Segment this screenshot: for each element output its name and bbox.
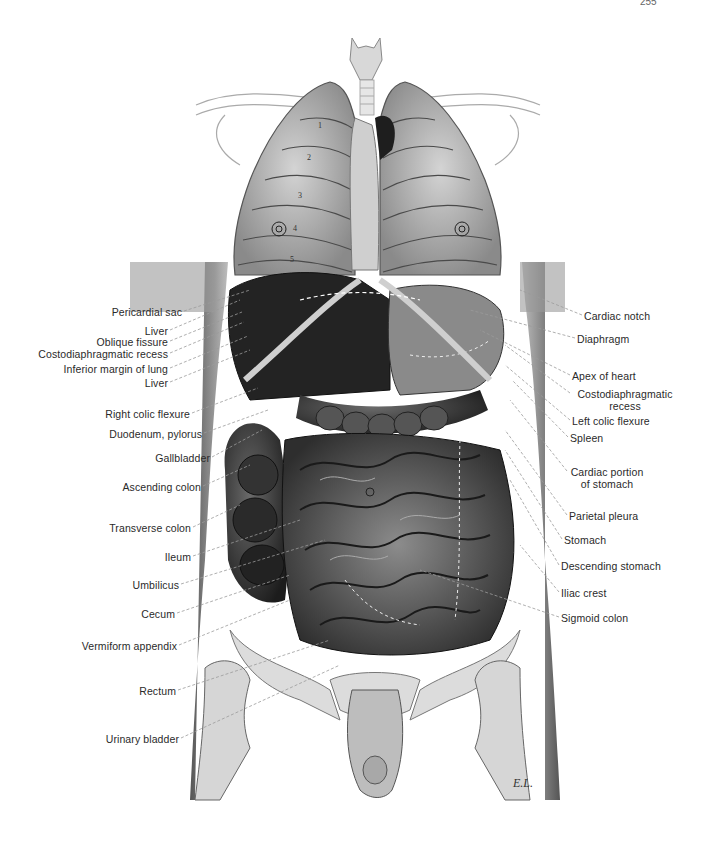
svg-text:1: 1 [318, 121, 322, 130]
left-lung [380, 82, 501, 275]
ascending-colon [225, 423, 289, 602]
label-costodiaphragmatic-line2: recess [572, 400, 678, 412]
small-intestine [282, 433, 514, 655]
label-costodiaphragmatic-recess-right: Costodiaphragmatic recess [38, 348, 168, 360]
label-spleen: Spleen [570, 432, 603, 444]
label-ileum: Ileum [165, 551, 191, 563]
artist-signature: E.L. [512, 776, 533, 790]
svg-text:3: 3 [298, 191, 302, 200]
label-liver-lower: Liver [145, 377, 168, 389]
label-pericardial-sac: Pericardial sac [112, 306, 182, 318]
thyroid-gland [350, 38, 382, 80]
trachea [360, 80, 374, 115]
liver [228, 273, 390, 400]
label-rectum: Rectum [139, 685, 176, 697]
label-vermiform-appendix: Vermiform appendix [82, 640, 177, 652]
svg-text:2: 2 [307, 153, 311, 162]
label-apex-of-heart: Apex of heart [572, 370, 636, 382]
label-costodiaphragmatic-line1: Costodiaphragmatic [572, 388, 678, 400]
label-parietal-pleura: Parietal pleura [569, 510, 638, 522]
label-cardiac-portion-line1: Cardiac portion [569, 466, 645, 478]
label-cecum: Cecum [141, 608, 175, 620]
label-diaphragm: Diaphragm [577, 333, 629, 345]
label-sigmoid-colon: Sigmoid colon [561, 612, 628, 624]
label-inferior-margin-of-lung: Inferior margin of lung [64, 363, 168, 375]
label-cardiac-notch: Cardiac notch [584, 310, 650, 322]
label-right-colic-flexure: Right colic flexure [105, 408, 190, 420]
label-stomach: Stomach [564, 534, 606, 546]
label-iliac-crest: Iliac crest [561, 587, 606, 599]
label-transverse-colon: Transverse colon [109, 522, 191, 534]
label-gallbladder: Gallbladder [155, 452, 210, 464]
label-ascending-colon: Ascending colon [122, 481, 201, 493]
label-left-colic-flexure: Left colic flexure [572, 415, 650, 427]
external-genitalia [347, 690, 402, 798]
label-cardiac-portion-line2: of stomach [569, 478, 645, 490]
label-cardiac-portion-of-stomach: Cardiac portion of stomach [569, 466, 645, 490]
svg-text:4: 4 [293, 224, 297, 233]
label-costodiaphragmatic-recess-left: Costodiaphragmatic recess [572, 388, 678, 412]
label-oblique-fissure: Oblique fissure [96, 336, 168, 348]
right-lung [234, 82, 355, 275]
transverse-colon [296, 390, 488, 438]
label-duodenum-pylorus: Duodenum, pylorus [109, 428, 202, 440]
label-umbilicus: Umbilicus [133, 579, 179, 591]
label-urinary-bladder: Urinary bladder [106, 733, 179, 745]
svg-text:5: 5 [290, 255, 294, 264]
label-descending-stomach: Descending stomach [561, 560, 661, 572]
